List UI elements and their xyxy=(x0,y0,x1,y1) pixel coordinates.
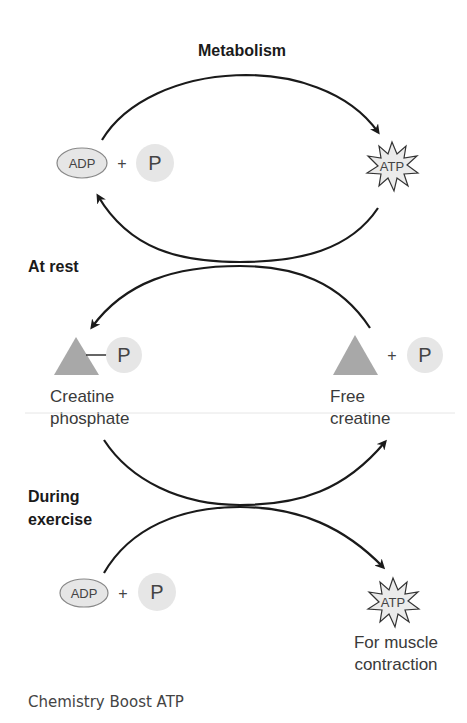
svg-text:P: P xyxy=(148,152,161,174)
free-creatine-label-2: creatine xyxy=(330,409,390,428)
phosphate-circle-top: P xyxy=(136,144,174,182)
phosphate-circle-bottom: P xyxy=(138,573,176,611)
svg-text:P: P xyxy=(117,344,130,366)
free-creatine-molecule xyxy=(333,335,378,375)
phosphate-circle-free: P xyxy=(407,337,443,373)
exercise-atp-arrow xyxy=(104,507,383,573)
creatine-phosphate-molecule: P xyxy=(54,337,142,375)
muscle-contraction-label-2: contraction xyxy=(354,655,437,674)
during-exercise-label-1: During xyxy=(28,488,80,505)
plus-sign: + xyxy=(387,347,396,364)
at-rest-arrow xyxy=(92,266,370,328)
creatine-phosphate-label-1: Creatine xyxy=(50,387,114,406)
figure-caption: Chemistry Boost ATP xyxy=(28,693,184,711)
svg-text:P: P xyxy=(150,581,163,603)
atp-starburst-bottom: ATP xyxy=(368,578,419,627)
atp-cycle-diagram: Metabolism ADP + P ATP At rest P Creatin… xyxy=(0,0,467,723)
at-rest-label: At rest xyxy=(28,258,79,275)
creatine-phosphate-label-2: phosphate xyxy=(50,409,129,428)
during-exercise-label-2: exercise xyxy=(28,511,92,528)
exercise-creatine-arrow xyxy=(104,440,385,505)
svg-text:ATP: ATP xyxy=(380,159,404,174)
muscle-contraction-label-1: For muscle xyxy=(354,633,438,652)
adp-molecule-top: ADP xyxy=(57,148,107,178)
plus-sign: + xyxy=(118,585,127,602)
svg-text:P: P xyxy=(418,344,431,366)
metabolism-title: Metabolism xyxy=(198,42,286,59)
free-creatine-label-1: Free xyxy=(330,387,365,406)
svg-text:ADP: ADP xyxy=(69,156,96,171)
plus-sign: + xyxy=(117,155,126,172)
metabolism-arrow xyxy=(102,75,378,140)
svg-text:ATP: ATP xyxy=(381,595,405,610)
atp-breakdown-arrow xyxy=(98,196,378,262)
adp-molecule-bottom: ADP xyxy=(60,579,108,607)
svg-text:ADP: ADP xyxy=(71,586,98,601)
atp-starburst-top: ATP xyxy=(367,142,418,191)
